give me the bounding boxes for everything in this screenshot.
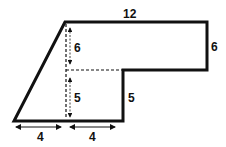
label-top: 12 [123,7,137,21]
shape-outline [14,22,207,121]
composite-shape-diagram: 12 6 6 5 5 4 4 [0,0,226,147]
label-step-right: 5 [128,91,135,105]
label-inner-upper: 6 [74,41,81,55]
label-inner-lower: 5 [74,91,81,105]
label-bottom-left: 4 [37,130,44,144]
label-right-upper: 6 [211,40,218,54]
label-bottom-right: 4 [89,130,96,144]
